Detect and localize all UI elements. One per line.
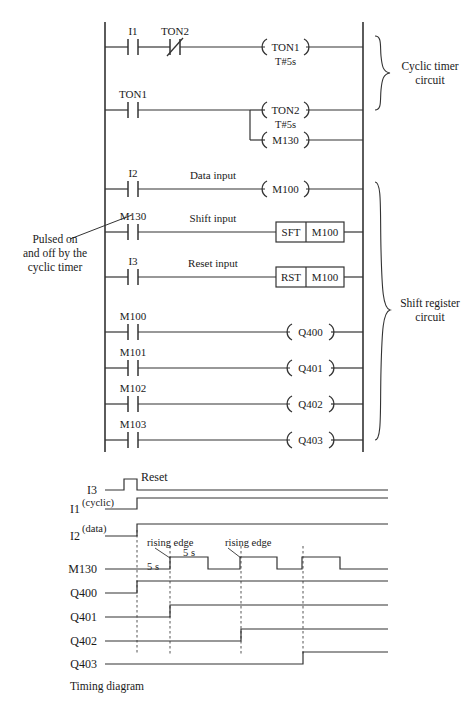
figure-root: I1 TON2 TON1 T#5s [0,0,475,707]
coil-m130[interactable]: M130 [262,132,309,148]
contact-i2[interactable]: I2 [128,167,138,197]
coil-m130-label: M130 [272,134,299,146]
trace-i2-label: I2 [70,529,80,543]
coil-q400-label: Q400 [298,326,323,338]
rising-edge-leader-2 [228,548,241,558]
contact-m102-label: M102 [120,382,146,394]
contact-m130[interactable]: M130 [120,210,147,240]
trace-m130: M130 [68,557,388,576]
contact-i1-label: I1 [128,25,137,37]
trace-m130-label: M130 [68,562,97,576]
function-block-rst[interactable]: RST M100 [276,267,344,287]
brace-shift-register-line-1: Shift register [400,297,460,310]
coil-q401-label: Q401 [298,362,322,374]
trace-i3-label: I3 [87,483,97,497]
function-block-rst-operand: M100 [312,271,339,283]
rung-4: M130 Shift input SFT M100 [105,210,363,242]
duration-label-2: 5 s [183,547,195,558]
brace-shift-register-shape [375,182,390,440]
timing-diagram: I3 Reset I1 (cyclic) I2 (data) rising ed… [68,470,388,693]
trace-q403-label: Q403 [70,657,97,671]
ladder-and-timing-diagram: I1 TON2 TON1 T#5s [0,0,475,707]
annotation-rising-edges: rising edge rising edge 5 s 5 s [147,537,272,572]
contact-ton2-nc[interactable]: TON2 [161,25,189,56]
contact-m102[interactable]: M102 [120,382,146,412]
contact-i3-label: I3 [128,255,138,267]
timer-preset-ton2: T#5s [275,119,296,130]
contact-m101[interactable]: M101 [120,346,146,376]
function-block-rst-name: RST [281,271,301,283]
contact-m103-label: M103 [120,418,147,430]
trace-q401-label: Q401 [70,610,97,624]
rung-5-comment: Reset input [188,257,238,269]
function-block-sft-name: SFT [282,226,301,238]
trace-i2-waveform [105,524,388,536]
trace-q403-waveform [105,652,388,664]
trace-q402: Q402 [70,629,388,648]
trace-q400-label: Q400 [70,586,97,600]
rung-5: I3 Reset input RST M100 [105,255,363,287]
coil-ton2-label: TON2 [272,104,300,116]
contact-m130-label: M130 [120,210,147,222]
coil-ton2[interactable]: TON2 [262,102,309,118]
trace-i1-waveform [105,498,388,509]
brace-cyclic-timer: Cyclic timer circuit [375,36,459,110]
coil-m100-data[interactable]: M100 [262,181,309,197]
rung-7: M101 Q401 [105,346,363,376]
coil-ton1[interactable]: TON1 [262,39,309,55]
rung-8: M102 Q402 [105,382,363,412]
contact-ton1[interactable]: TON1 [119,88,147,118]
coil-q402[interactable]: Q402 [287,396,334,412]
contact-m100[interactable]: M100 [120,310,147,340]
contact-i2-label: I2 [128,167,137,179]
trace-i1-suffix: (cyclic) [82,497,115,509]
rung-9: M103 Q403 [105,418,363,448]
rung-3-comment: Data input [190,169,236,181]
trace-q402-waveform [105,629,388,641]
brace-shift-register-line-2: circuit [415,311,445,323]
duration-label-1: 5 s [147,561,159,572]
trace-q401-waveform [105,605,388,617]
coil-ton1-label: TON1 [272,41,300,53]
figure-caption: Timing diagram [70,680,144,693]
rung-6: M100 Q400 [105,310,363,340]
brace-cyclic-timer-line-1: Cyclic timer [401,60,458,73]
rising-edge-label-2: rising edge [225,537,272,548]
callout-leader-line [70,215,132,239]
timing-markers [137,530,303,655]
trace-i3: I3 Reset [87,470,388,497]
contact-i1[interactable]: I1 [128,25,138,55]
coil-q401[interactable]: Q401 [287,360,334,376]
function-block-sft-operand: M100 [312,226,339,238]
trace-q400: Q400 [70,581,388,600]
coil-q403[interactable]: Q403 [287,432,334,448]
trace-i1-label: I1 [70,502,80,516]
brace-cyclic-timer-line-2: circuit [415,74,445,86]
trace-q402-label: Q402 [70,634,97,648]
trace-q403: Q403 [70,652,388,671]
trace-q400-waveform [105,581,388,593]
coil-q403-label: Q403 [298,434,323,446]
contact-i3[interactable]: I3 [128,255,138,285]
rising-edge-leader-1 [155,548,170,558]
brace-shift-register: Shift register circuit [375,182,460,440]
contact-m103[interactable]: M103 [120,418,147,448]
timer-preset-ton1: T#5s [275,56,296,67]
callout-line-2: and off by the [23,247,87,260]
brace-cyclic-timer-shape [375,36,390,110]
coil-m100-label: M100 [272,183,299,195]
trace-q401: Q401 [70,605,388,624]
function-block-sft[interactable]: SFT M100 [276,222,344,242]
rung-3: I2 Data input M100 [105,167,363,197]
rung-4-comment: Shift input [190,212,237,224]
rung-1: I1 TON2 TON1 T#5s [105,25,363,67]
trace-i2-suffix: (data) [82,523,107,535]
ladder-diagram: I1 TON2 TON1 T#5s [23,22,460,452]
callout-line-3: cyclic timer [28,261,83,274]
coil-q402-label: Q402 [298,398,322,410]
trace-i3-note: Reset [141,470,168,484]
trace-i1: I1 (cyclic) [70,497,388,516]
contact-ton1-label: TON1 [119,88,147,100]
rung-2: TON1 TON2 T#5s M130 [105,88,363,148]
coil-q400[interactable]: Q400 [287,324,334,340]
